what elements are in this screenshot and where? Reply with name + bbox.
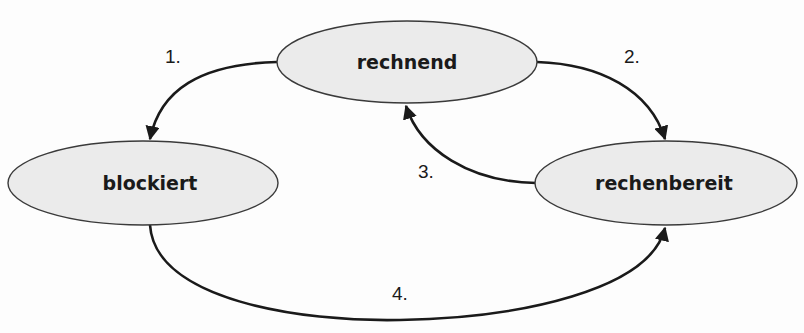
node-blockiert-label: blockiert — [103, 172, 198, 194]
node-blockiert: blockiert — [8, 141, 278, 225]
diagram-canvas: 1. 2. 3. 4. rechnend blockiert — [0, 0, 804, 333]
edge-4: 4. — [150, 225, 665, 320]
edge-1: 1. — [150, 46, 277, 139]
edge-1-label: 1. — [165, 46, 181, 67]
edge-2: 2. — [537, 46, 665, 139]
state-diagram: 1. 2. 3. 4. rechnend blockiert — [0, 0, 804, 333]
edge-2-label: 2. — [624, 46, 640, 67]
edge-1-arrow — [150, 62, 277, 139]
node-rechenbereit: rechenbereit — [535, 141, 797, 225]
edge-3-label: 3. — [418, 161, 434, 182]
edge-4-label: 4. — [392, 283, 408, 304]
edge-3: 3. — [406, 106, 536, 183]
node-rechenbereit-label: rechenbereit — [595, 172, 733, 194]
node-rechnend: rechnend — [277, 21, 537, 103]
edge-2-arrow — [537, 62, 665, 139]
node-rechnend-label: rechnend — [357, 51, 458, 73]
edge-4-arrow — [150, 225, 665, 320]
